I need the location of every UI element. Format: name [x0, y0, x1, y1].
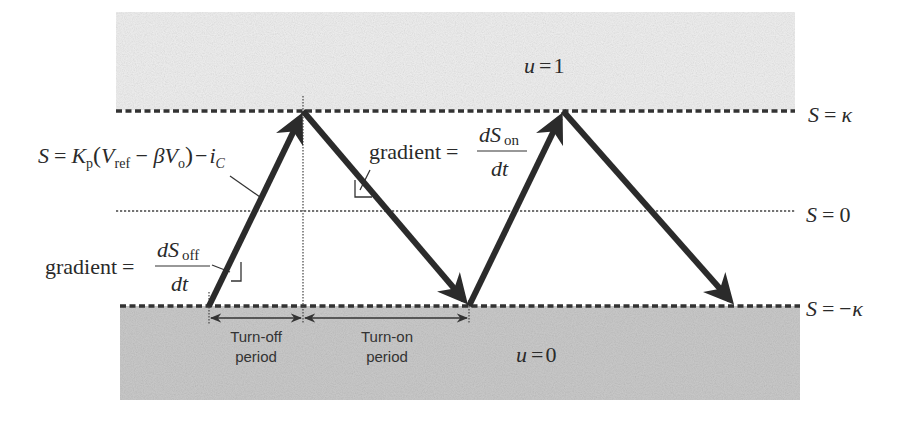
svg-text:dSoff: dSoff	[157, 237, 199, 263]
turn-on-period-label-2: period	[366, 348, 408, 365]
gradient-off-label: gradient= dSoff dt	[45, 237, 210, 296]
svg-text:gradient=: gradient=	[45, 254, 135, 279]
trajectory-segment-rise-1	[209, 118, 300, 306]
gradient-on-label: gradient= dSon dt	[369, 122, 527, 181]
lower-region-u0	[120, 306, 800, 400]
level-label-neg-kappa: S=−κ	[806, 296, 863, 321]
svg-text:gradient=: gradient=	[369, 139, 459, 164]
switching-diagram: u=1 u=0 S=κ S=0 S=−κ S=Kp(Vref − βVo)−iC…	[0, 0, 912, 422]
svg-text:dSon: dSon	[479, 122, 520, 148]
upper-region-u1	[116, 12, 795, 110]
sliding-surface-equation: S=Kp(Vref − βVo)−iC	[38, 142, 226, 171]
turn-on-period-label: Turn-on	[361, 328, 413, 345]
svg-text:dt: dt	[171, 271, 189, 296]
svg-text:dt: dt	[491, 156, 509, 181]
leader-sliding-surface	[230, 176, 260, 197]
trajectory	[209, 111, 730, 306]
turn-off-period-label-2: period	[235, 348, 277, 365]
trajectory-segment-fall-2	[563, 111, 730, 300]
turn-off-period-label: Turn-off	[230, 328, 283, 345]
upper-region-label: u=1	[524, 53, 564, 78]
lower-region-label: u=0	[516, 342, 556, 367]
level-label-kappa: S=κ	[808, 102, 852, 127]
right-angle-marker-off	[231, 262, 241, 281]
level-label-zero: S=0	[806, 202, 850, 227]
